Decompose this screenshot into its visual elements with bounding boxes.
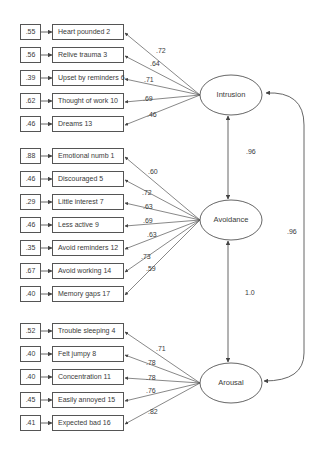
correlation-label: .96 — [287, 228, 297, 236]
latent-label: Avoidance — [200, 215, 262, 224]
loading-arrow — [125, 220, 200, 226]
loading-arrow — [125, 383, 200, 401]
latent-label: Arousal — [200, 378, 262, 387]
indicator-box: Concentration 11 — [52, 369, 124, 385]
error-variance-box: .62 — [20, 93, 41, 109]
path-layer — [0, 0, 324, 452]
indicator-box: Discouraged 5 — [52, 171, 124, 187]
loading-label: .63 — [143, 203, 153, 211]
correlation-label: 1.0 — [245, 289, 255, 297]
loading-label: .69 — [143, 95, 153, 103]
loading-label: .63 — [147, 231, 157, 239]
error-variance-box: .55 — [20, 24, 41, 40]
correlation-label: .96 — [246, 148, 256, 156]
error-variance-box: .40 — [20, 346, 41, 362]
loading-label: .73 — [141, 253, 151, 261]
error-variance-box: .56 — [20, 47, 41, 63]
loading-label: .71 — [144, 76, 154, 84]
loading-arrow — [125, 220, 200, 295]
error-variance-box: .35 — [20, 240, 41, 256]
error-variance-box: .46 — [20, 171, 41, 187]
indicator-box: Thought of work 10 — [52, 93, 124, 109]
error-variance-box: .52 — [20, 323, 41, 339]
error-variance-box: .39 — [20, 70, 41, 86]
loading-label: .64 — [150, 60, 160, 68]
loading-arrow — [125, 383, 200, 424]
error-variance-box: .40 — [20, 369, 41, 385]
indicator-box: Avoid working 14 — [52, 263, 124, 279]
loading-label: .71 — [156, 345, 166, 353]
loading-arrow — [125, 220, 200, 272]
error-variance-box: .45 — [20, 392, 41, 408]
loading-arrow — [125, 157, 200, 220]
indicator-box: Emotional numb 1 — [52, 148, 124, 164]
indicator-box: Heart pounded 2 — [52, 24, 124, 40]
loading-arrow — [125, 79, 200, 95]
loading-arrow — [125, 220, 200, 249]
loading-label: .60 — [148, 168, 158, 176]
loading-label: .69 — [143, 217, 153, 225]
indicator-box: Trouble sleeping 4 — [52, 323, 124, 339]
indicator-box: Expected bad 16 — [52, 415, 124, 431]
error-variance-box: .40 — [20, 286, 41, 302]
loading-label: .76 — [146, 387, 156, 395]
loading-label: .78 — [146, 359, 156, 367]
loading-label: .82 — [148, 408, 158, 416]
indicator-box: Dreams 13 — [52, 116, 124, 132]
loading-arrow — [125, 95, 200, 102]
indicator-box: Easily annoyed 15 — [52, 392, 124, 408]
loading-arrow — [125, 95, 200, 125]
error-variance-box: .41 — [20, 415, 41, 431]
indicator-box: Memory gaps 17 — [52, 286, 124, 302]
loading-arrow — [125, 33, 200, 95]
loading-arrow — [125, 180, 200, 220]
indicator-box: Upset by reminders 6 — [52, 70, 124, 86]
loading-arrow — [125, 203, 200, 220]
error-variance-box: .46 — [20, 116, 41, 132]
loading-label: .46 — [147, 111, 157, 119]
indicator-box: Avoid reminders 12 — [52, 240, 124, 256]
indicator-box: Relive trauma 3 — [52, 47, 124, 63]
correlation-intrusion-arousal — [264, 93, 304, 381]
loading-label: .78 — [146, 374, 156, 382]
loading-label: .72 — [142, 189, 152, 197]
latent-label: Intrusion — [200, 90, 262, 99]
loading-arrow — [125, 56, 200, 95]
error-variance-box: .88 — [20, 148, 41, 164]
loading-arrow — [125, 332, 200, 383]
indicator-box: Little interest 7 — [52, 194, 124, 210]
indicator-box: Less active 9 — [52, 217, 124, 233]
error-variance-box: .29 — [20, 194, 41, 210]
error-variance-box: .67 — [20, 263, 41, 279]
indicator-box: Felt jumpy 8 — [52, 346, 124, 362]
loading-label: .59 — [146, 265, 156, 273]
sem-diagram: Intrusion.55Heart pounded 2.72.56Relive … — [0, 0, 324, 452]
error-variance-box: .46 — [20, 217, 41, 233]
loading-label: .72 — [156, 47, 166, 55]
